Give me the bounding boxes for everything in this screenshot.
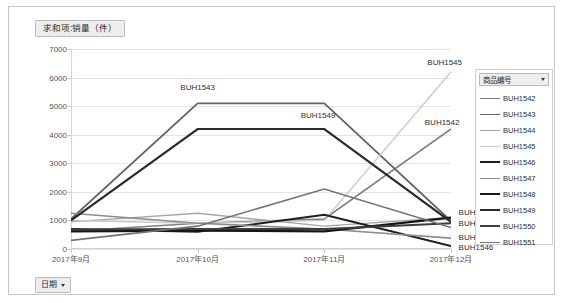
date-field-label: 日期: [41, 281, 57, 289]
legend-swatch-icon: [480, 242, 500, 243]
legend-item[interactable]: BUH1546: [480, 154, 550, 170]
x-tick-label: 2017年12月: [430, 253, 473, 264]
series-annotation: BUH1545: [427, 57, 462, 66]
legend-item-label: BUH1543: [503, 110, 536, 119]
y-axis-labels: 01000200030004000500060007000: [31, 49, 67, 249]
date-field-button[interactable]: 日期: [35, 277, 71, 293]
legend-item[interactable]: BUH1549: [480, 202, 550, 218]
legend-swatch-icon: [480, 114, 500, 115]
legend-item-label: BUH1546: [503, 158, 536, 167]
legend-items: BUH1542BUH1543BUH1544BUH1545BUH1546BUH15…: [480, 90, 550, 250]
y-tick-label: 2000: [49, 187, 67, 196]
gridline: [71, 249, 451, 250]
legend-swatch-icon: [480, 178, 500, 179]
legend: 商品编号 BUH1542BUH1543BUH1544BUH1545BUH1546…: [475, 69, 553, 245]
value-field-button[interactable]: 求和项:销量（件）: [35, 20, 125, 37]
legend-swatch-icon: [480, 193, 500, 195]
series-line: [71, 72, 451, 223]
y-tick-label: 1000: [49, 216, 67, 225]
series-annotation: BUH1549: [301, 110, 336, 119]
legend-item-label: BUH1550: [503, 222, 536, 231]
legend-swatch-icon: [480, 130, 500, 131]
legend-field-button[interactable]: 商品编号: [479, 73, 549, 86]
legend-item-label: BUH1542: [503, 94, 536, 103]
legend-item-label: BUH1547: [503, 174, 536, 183]
series-lines: [71, 49, 451, 249]
legend-swatch-icon: [480, 225, 500, 227]
legend-item-label: BUH1548: [503, 190, 536, 199]
legend-swatch-icon: [480, 146, 500, 147]
legend-item-label: BUH1545: [503, 142, 536, 151]
legend-item[interactable]: BUH1547: [480, 170, 550, 186]
legend-item[interactable]: BUH1544: [480, 122, 550, 138]
y-tick-label: 7000: [49, 45, 67, 54]
legend-item[interactable]: BUH1545: [480, 138, 550, 154]
pivot-chart-frame: 求和项:销量（件） 01000200030004000500060007000 …: [8, 6, 555, 295]
legend-item[interactable]: BUH1543: [480, 106, 550, 122]
legend-item-label: BUH1549: [503, 206, 536, 215]
chevron-down-icon[interactable]: [61, 284, 65, 287]
legend-item[interactable]: BUH1548: [480, 186, 550, 202]
y-tick-label: 3000: [49, 159, 67, 168]
x-tick-label: 2017年11月: [303, 253, 345, 264]
series-line: [71, 103, 451, 221]
series-annotation: BUH1543: [180, 82, 215, 91]
legend-item[interactable]: BUH1551: [480, 234, 550, 250]
x-tick-label: 2017年9月: [52, 253, 90, 264]
legend-item-label: BUH1551: [503, 238, 536, 247]
series-annotation: BUH1542: [425, 118, 460, 127]
legend-item[interactable]: BUH1550: [480, 218, 550, 234]
value-field-label: 求和项:销量（件）: [43, 24, 117, 33]
legend-swatch-icon: [480, 98, 500, 99]
chevron-down-icon[interactable]: [541, 78, 545, 81]
legend-item[interactable]: BUH1542: [480, 90, 550, 106]
y-tick-label: 4000: [49, 130, 67, 139]
legend-swatch-icon: [480, 161, 500, 163]
legend-title: 商品编号: [483, 74, 511, 85]
legend-swatch-icon: [480, 209, 500, 211]
x-tick-label: 2017年10月: [176, 253, 219, 264]
plot-area: BUH1543BUH1549BUH1545BUH1542BUH1548BUH15…: [71, 49, 451, 249]
y-tick-label: 6000: [49, 73, 67, 82]
y-tick-label: 5000: [49, 102, 67, 111]
x-axis-labels: 2017年9月2017年10月2017年11月2017年12月: [71, 253, 451, 267]
legend-item-label: BUH1544: [503, 126, 536, 135]
